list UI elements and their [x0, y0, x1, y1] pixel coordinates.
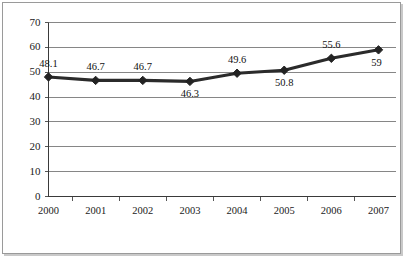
y-tick-label-40: 40	[30, 90, 42, 102]
data-label-2004: 49.6	[228, 54, 246, 65]
gridline-group	[49, 23, 396, 197]
x-tick-label-2004: 2004	[227, 205, 249, 216]
y-tick-label-70: 70	[30, 16, 42, 28]
chart-plot-area: 010203040506070 200020012002200320042005…	[0, 0, 411, 264]
chart-screenshot: 010203040506070 200020012002200320042005…	[0, 0, 411, 264]
y-tick-label-60: 60	[30, 40, 42, 52]
x-tick-label-2001: 2001	[85, 205, 106, 216]
y-tick-label-10: 10	[30, 165, 42, 177]
data-label-2005: 50.8	[275, 77, 293, 88]
data-marker-2004	[233, 69, 241, 77]
data-label-2000: 48.1	[39, 58, 57, 69]
data-label-2007: 59	[371, 57, 382, 68]
data-label-2003: 46.3	[181, 88, 199, 99]
x-tick-label-2003: 2003	[179, 205, 200, 216]
data-label-2001: 46.7	[86, 61, 104, 72]
data-marker-2005	[280, 66, 288, 74]
x-tick-label-2007: 2007	[368, 205, 389, 216]
data-marker-2002	[139, 76, 147, 84]
data-marker-2003	[186, 77, 194, 85]
x-tick-label-2000: 2000	[38, 205, 59, 216]
y-tick-label-20: 20	[30, 140, 42, 152]
x-tick-label-2005: 2005	[274, 205, 295, 216]
data-point-labels: 48.146.746.746.349.650.855.659	[39, 39, 381, 99]
data-marker-2000	[44, 73, 52, 81]
y-axis-tick-labels: 010203040506070	[30, 16, 42, 202]
data-marker-2001	[91, 76, 99, 84]
x-axis-tick-labels: 20002001200220032004200520062007	[38, 205, 389, 216]
y-tick-label-0: 0	[35, 190, 41, 202]
x-tick-label-2002: 2002	[132, 205, 153, 216]
y-tick-label-30: 30	[30, 115, 42, 127]
x-tick-label-2006: 2006	[321, 205, 342, 216]
data-marker-2006	[327, 54, 335, 62]
line-chart: 010203040506070 200020012002200320042005…	[0, 0, 411, 264]
data-label-2006: 55.6	[322, 39, 340, 50]
data-label-2002: 46.7	[134, 61, 152, 72]
